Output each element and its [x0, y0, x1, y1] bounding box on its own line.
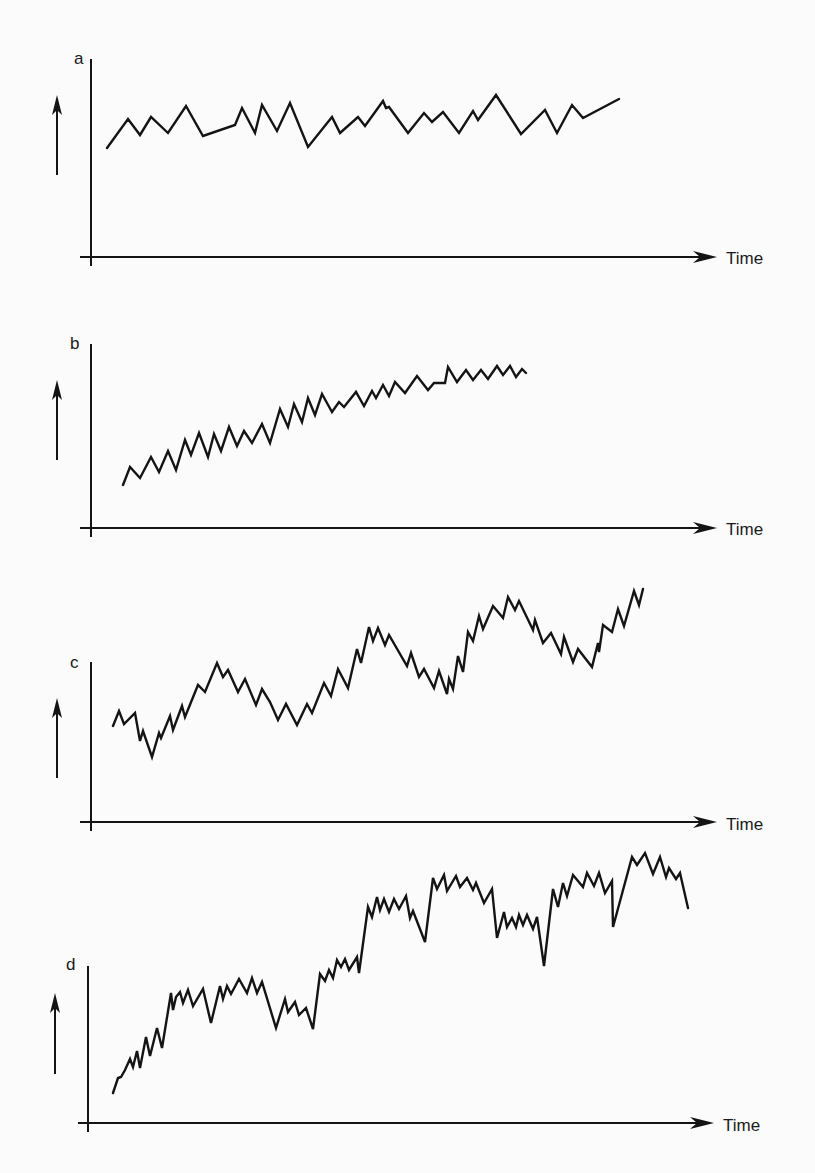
series-line-d — [113, 853, 688, 1093]
series-line-b — [123, 366, 526, 485]
series-line-c — [113, 589, 643, 757]
chart-panel-b — [52, 344, 717, 537]
chart-panel-c — [52, 589, 717, 831]
figure — [0, 0, 815, 1173]
chart-panel-a — [52, 59, 717, 266]
series-line-a — [107, 95, 619, 148]
chart-panels — [50, 59, 717, 1132]
chart-panel-d — [50, 853, 714, 1132]
